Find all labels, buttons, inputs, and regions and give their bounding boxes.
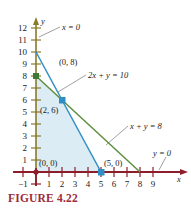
vertex-marker-0-8 [33,73,39,79]
y-tick-label-7: 7 [23,83,28,93]
vertex-marker-5-0 [98,169,105,176]
figure-caption: FIGURE 4.22 [8,192,78,204]
y-tick-label-1: 1 [23,155,28,165]
y-tick-label-11: 11 [18,35,27,45]
leader-line-x-plus-y-equals-8 [106,126,128,145]
y-axis-arrowhead [33,17,39,25]
label-point-2-6: (2, 6) [40,105,59,115]
label-constraint-x-equals-0: x = 0 [61,22,81,32]
y-axis-label: y [40,16,45,26]
x-tick-label-1: 1 [47,179,52,189]
leader-line-2x-plus-y-equals-10 [58,75,86,92]
y-tick-label-6: 6 [23,95,28,105]
vertex-marker-2-6 [59,97,66,104]
x-axis-arrowhead [180,169,188,175]
x-tick-label-neg1: −1 [18,179,28,189]
y-tick-label-2: 2 [23,143,28,153]
label-constraint-x-plus-y-equals-8: x + y = 8 [129,121,163,131]
label-point-5-0: (5, 0) [104,158,123,168]
x-axis-label: x [176,174,181,184]
leader-line-x-equals-0 [39,27,60,37]
label-constraint-2x-plus-y-equals-10: 2x + y = 10 [88,70,129,80]
x-tick-label-8: 8 [138,179,143,189]
label-point-0-0: (0, 0) [39,158,58,168]
label-point-0-8: (0, 8) [59,57,78,67]
leader-line-y-equals-0 [159,157,166,170]
y-tick-label-8: 8 [23,71,28,81]
x-tick-label-7: 7 [125,179,130,189]
label-constraint-y-equals-0: y = 0 [152,148,172,158]
x-tick-label-6: 6 [112,179,117,189]
y-tick-label-5: 5 [23,107,28,117]
x-tick-label-5: 5 [99,179,104,189]
vertex-marker-origin [33,169,38,174]
x-tick-label-2: 2 [60,179,65,189]
y-tick-label-9: 9 [23,59,28,69]
y-tick-label-4: 4 [23,119,28,129]
x-tick-label-9: 9 [151,179,156,189]
figure-container: 12 11 10 9 8 7 6 5 4 3 2 1 −1 1 2 3 4 5 … [0,0,191,213]
linear-programming-graph: 12 11 10 9 8 7 6 5 4 3 2 1 −1 1 2 3 4 5 … [0,0,191,213]
y-tick-label-12: 12 [18,23,27,33]
x-tick-label-4: 4 [86,179,91,189]
x-tick-label-3: 3 [73,179,78,189]
y-tick-label-10: 10 [18,47,28,57]
y-tick-label-3: 3 [23,131,28,141]
